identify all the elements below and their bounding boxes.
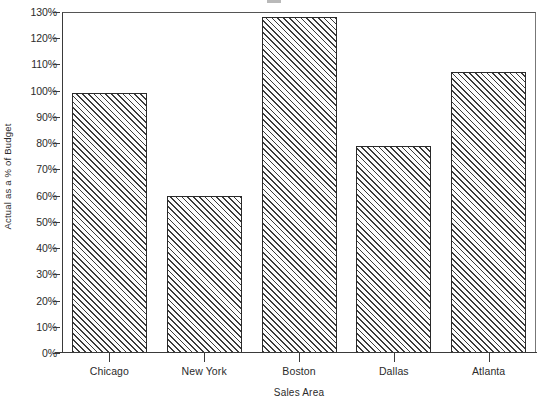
y-axis-tick-mark bbox=[53, 248, 60, 249]
y-axis-tick-mark bbox=[53, 117, 60, 118]
y-axis-tick-labels: 0%10%20%30%40%50%60%70%80%90%100%110%120… bbox=[14, 0, 60, 365]
y-axis-tick-mark bbox=[53, 12, 60, 13]
x-axis-tick-mark bbox=[299, 353, 300, 362]
cropped-title-remnant bbox=[267, 0, 281, 3]
x-axis-tick-label: Atlanta bbox=[472, 365, 505, 377]
y-axis-tick-mark bbox=[53, 196, 60, 197]
bar-chart: Actual as a % of Budget 0%10%20%30%40%50… bbox=[0, 0, 542, 405]
x-axis-tick-mark bbox=[204, 353, 205, 362]
bars-layer bbox=[62, 12, 536, 353]
y-axis-tick-mark bbox=[53, 222, 60, 223]
y-axis-tick-mark bbox=[53, 353, 60, 354]
x-axis-tick-mark bbox=[394, 353, 395, 362]
y-axis-tick-mark bbox=[53, 91, 60, 92]
y-axis-tick-mark bbox=[53, 327, 60, 328]
x-axis-baseline bbox=[55, 352, 537, 353]
bar bbox=[356, 146, 431, 353]
bar bbox=[451, 72, 526, 353]
x-axis-title: Sales Area bbox=[62, 387, 536, 398]
y-axis-tick-mark bbox=[53, 274, 60, 275]
y-axis-tick-mark bbox=[53, 143, 60, 144]
bar bbox=[262, 17, 337, 353]
x-axis-tick-label: Boston bbox=[282, 365, 315, 377]
y-axis-title-text: Actual as a % of Budget bbox=[2, 124, 13, 230]
y-axis-title: Actual as a % of Budget bbox=[0, 0, 14, 353]
bar bbox=[72, 93, 147, 353]
x-axis-tick-mark bbox=[109, 353, 110, 362]
x-axis-tick-mark bbox=[489, 353, 490, 362]
y-axis-tick-mark bbox=[53, 64, 60, 65]
y-axis-tick-mark bbox=[53, 38, 60, 39]
x-axis-tick-label: Dallas bbox=[379, 365, 409, 377]
x-axis-tick-label: Chicago bbox=[90, 365, 129, 377]
x-axis-tick-label: New York bbox=[182, 365, 227, 377]
y-axis-tick-mark bbox=[53, 169, 60, 170]
y-axis-tick-mark bbox=[53, 301, 60, 302]
bar bbox=[167, 196, 242, 353]
